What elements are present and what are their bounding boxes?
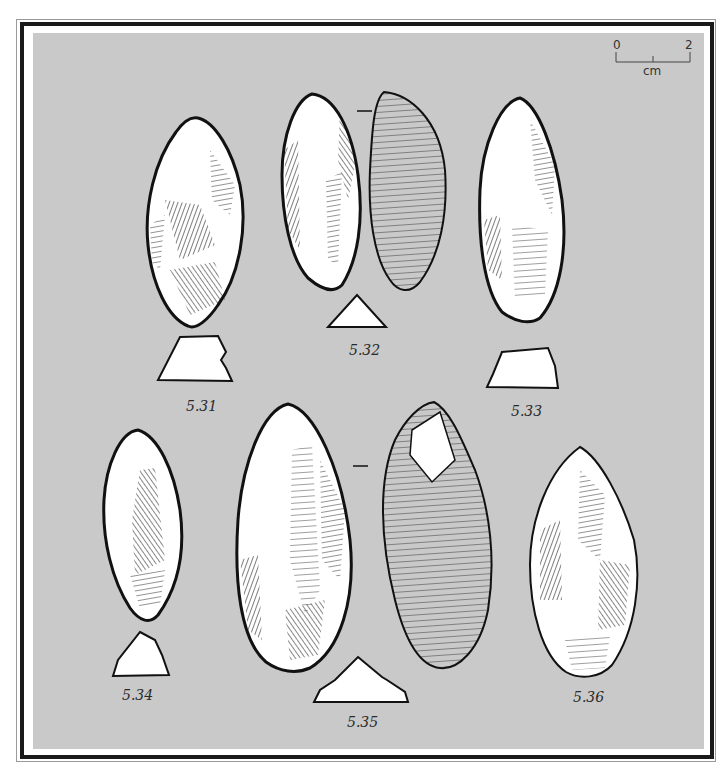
figure-5-35: 5.35 xyxy=(237,402,492,730)
scale-end-label: 2 xyxy=(685,38,693,52)
scale-bar: 0 2 cm xyxy=(613,38,693,78)
scale-unit-label: cm xyxy=(643,64,661,78)
figure-5-33: 5.33 xyxy=(480,98,564,419)
scale-start-label: 0 xyxy=(613,38,621,52)
figure-label-5-36: 5.36 xyxy=(573,689,604,705)
section-5-35 xyxy=(314,657,408,702)
section-5-32 xyxy=(328,295,386,327)
section-5-34 xyxy=(113,632,169,676)
section-5-31 xyxy=(158,336,232,381)
figure-label-5-33: 5.33 xyxy=(511,403,542,419)
figure-label-5-31: 5.31 xyxy=(186,398,217,414)
figure-label-5-35: 5.35 xyxy=(347,714,378,730)
figure-5-31: 5.31 xyxy=(147,118,243,414)
figure-label-5-32: 5.32 xyxy=(349,342,380,358)
artifact-plate: 0 2 cm 5.31 5.32 5.33 5.34 xyxy=(0,0,727,779)
figure-label-5-34: 5.34 xyxy=(122,687,153,703)
figure-5-34: 5.34 xyxy=(104,430,182,703)
figure-5-36: 5.36 xyxy=(530,447,637,705)
artifact-5-32-ventral xyxy=(370,92,446,290)
figure-5-32: 5.32 xyxy=(282,92,446,358)
section-5-33 xyxy=(487,348,558,388)
